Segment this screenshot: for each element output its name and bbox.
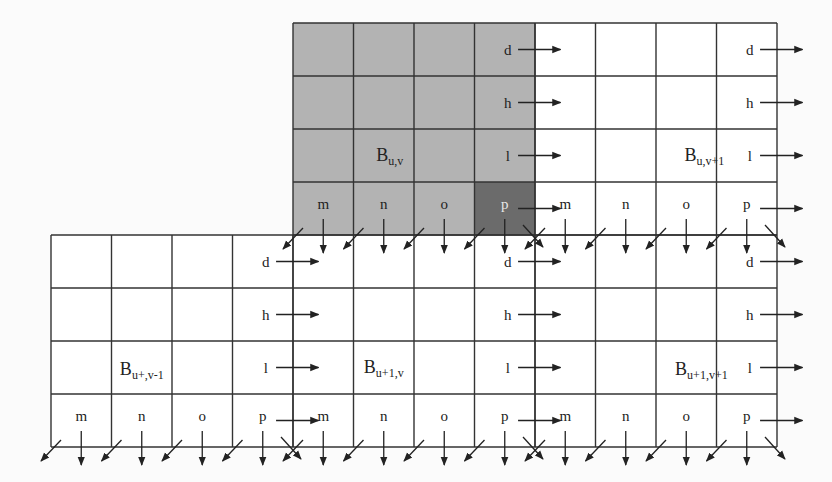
grid-cell [354, 76, 415, 129]
cell-label-h: h [746, 95, 754, 110]
block-label-base: B [120, 359, 132, 379]
block-label-base: B [376, 144, 388, 164]
cell-label-n: n [622, 409, 630, 424]
grid-cell [354, 288, 415, 341]
cell-label-m: m [317, 197, 329, 212]
grid-cell [51, 288, 112, 341]
cell-label-o: o [683, 409, 691, 424]
cell-label-l: l [506, 360, 510, 375]
block-dependency-diagram [0, 0, 832, 482]
cell-label-o: o [441, 197, 449, 212]
grid-cell [51, 341, 112, 394]
block-label: Bu,v [376, 145, 403, 166]
cell-label-d: d [504, 254, 512, 269]
block-label: Bu+,v-1 [120, 360, 164, 381]
cell-label-l: l [506, 148, 510, 163]
grid-cell [596, 129, 657, 182]
block-label-subscript: u,v [388, 153, 403, 167]
cell-label-m: m [559, 409, 571, 424]
cell-label-o: o [441, 409, 449, 424]
grid-cell [414, 76, 475, 129]
cell-label-p: p [743, 409, 751, 424]
block-label-base: B [684, 144, 696, 164]
cell-label-h: h [262, 307, 270, 322]
cell-label-l: l [748, 360, 752, 375]
grid-cell [354, 23, 415, 76]
block-label-subscript: u+1,v+1 [687, 368, 728, 382]
block-label-base: B [675, 359, 687, 379]
cell-label-n: n [138, 409, 146, 424]
grid-cell [293, 23, 354, 76]
grid-cell [656, 288, 717, 341]
cell-label-n: n [622, 197, 630, 212]
grid-cell [656, 76, 717, 129]
cell-label-o: o [199, 409, 207, 424]
cell-label-m: m [559, 197, 571, 212]
block-label: Bu+1,v [364, 357, 404, 378]
cell-label-m: m [75, 409, 87, 424]
grid-cell [414, 288, 475, 341]
cell-label-p: p [501, 197, 509, 212]
cell-label-p: p [259, 409, 267, 424]
grid-cell [414, 23, 475, 76]
grid-cell [112, 288, 173, 341]
cell-label-d: d [746, 254, 754, 269]
block-label-subscript: u+,v-1 [132, 368, 164, 382]
cell-label-m: m [317, 409, 329, 424]
cell-label-p: p [501, 409, 509, 424]
grid-cell [172, 288, 233, 341]
block-label-subscript: u,v+1 [697, 153, 725, 167]
grid-cell [172, 341, 233, 394]
grid-cell [656, 23, 717, 76]
cell-label-h: h [504, 95, 512, 110]
cell-label-l: l [748, 148, 752, 163]
grid-cell [293, 76, 354, 129]
block-label-base: B [364, 356, 376, 376]
grid-cell [293, 129, 354, 182]
cell-label-d: d [746, 42, 754, 57]
cell-label-p: p [743, 197, 751, 212]
grid-cell [414, 341, 475, 394]
grid-cell [596, 341, 657, 394]
cell-label-o: o [683, 197, 691, 212]
cell-label-d: d [504, 42, 512, 57]
cell-label-n: n [380, 409, 388, 424]
grid-cell [414, 129, 475, 182]
grid-cell [112, 235, 173, 288]
block-label: Bu+1,v+1 [675, 360, 728, 381]
cell-label-h: h [746, 307, 754, 322]
cell-label-h: h [504, 307, 512, 322]
block-label-subscript: u+1,v [376, 365, 404, 379]
grid-cell [172, 235, 233, 288]
grid-cell [596, 288, 657, 341]
block-label: Bu,v+1 [684, 145, 724, 166]
cell-label-l: l [264, 360, 268, 375]
grid-cell [51, 235, 112, 288]
grid-cell [596, 23, 657, 76]
grid-cell [596, 76, 657, 129]
cell-label-n: n [380, 197, 388, 212]
cell-label-d: d [262, 254, 270, 269]
